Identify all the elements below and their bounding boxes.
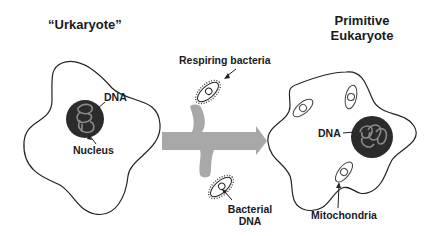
eukaryote-membrane	[268, 72, 416, 211]
mitochondrion	[343, 84, 359, 110]
eukaryote-dna-label: DNA	[318, 127, 341, 139]
eukaryote-title: Primitive Eukaryote	[316, 14, 408, 44]
respiring-bacterium	[191, 76, 224, 108]
arrow-body	[162, 105, 267, 178]
eukaryote-title-line1: Primitive	[316, 14, 408, 29]
mitochondria-arrowhead	[336, 182, 341, 188]
urkaryote-nucleus-label: Nucleus	[73, 144, 114, 156]
bacterial-dna-label: Bacterial DNA	[224, 203, 276, 227]
eukaryote-title-line2: Eukaryote	[316, 29, 408, 44]
mitochondria-label: Mitochondria	[311, 209, 377, 221]
mitochondrion	[290, 96, 315, 120]
mitochondria-pointer	[338, 185, 339, 208]
urkaryote-title: “Urkaryote”	[48, 18, 122, 33]
urkaryote-dna-label: DNA	[104, 91, 127, 103]
urkaryote-nucleus-pointer	[90, 136, 96, 144]
respiring-bacteria-label: Respiring bacteria	[179, 54, 271, 66]
mitochondrion	[332, 159, 355, 185]
bacterial-dna-label-line2: DNA	[224, 215, 276, 227]
eukaryote-cell	[268, 72, 416, 211]
bacterial-dna-label-line1: Bacterial	[224, 203, 276, 215]
urkaryote-cell	[24, 61, 160, 214]
merge-arrow	[162, 105, 267, 178]
